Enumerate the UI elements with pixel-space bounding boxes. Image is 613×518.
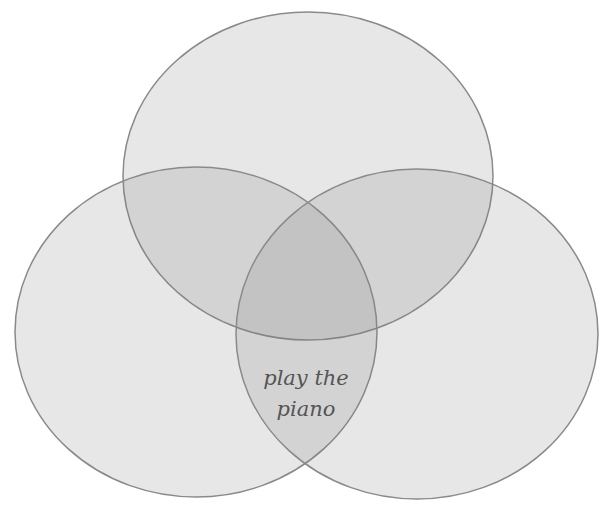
region-label-line-2: piano [277, 397, 336, 421]
region-label-line-1: play the [263, 366, 349, 390]
venn-circle-right [236, 169, 598, 499]
venn-diagram: play the piano [0, 0, 613, 518]
